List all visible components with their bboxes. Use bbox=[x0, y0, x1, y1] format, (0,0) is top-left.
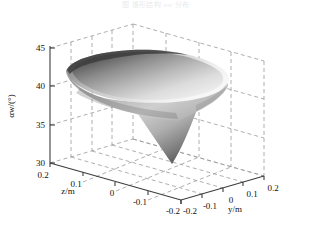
plot-canvas: 45 40 35 30 0.2 0.1 0 -0.1 -0.2 -0.2 -0.… bbox=[0, 0, 312, 234]
tick-z-0: 0 bbox=[110, 188, 115, 198]
tick-alpha-w-40: 40 bbox=[36, 81, 46, 91]
surface-cone bbox=[66, 50, 229, 164]
tick-y-neg0.2: -0.2 bbox=[183, 206, 197, 216]
tick-alpha-w-30: 30 bbox=[36, 158, 46, 168]
ticks-alpha-w bbox=[50, 48, 55, 163]
tick-y-0.1: 0.1 bbox=[246, 189, 257, 199]
axis-title-z: z/m bbox=[61, 186, 75, 196]
tick-z-neg0.2: -0.2 bbox=[166, 206, 180, 216]
tick-y-0.2: 0.2 bbox=[267, 183, 278, 193]
tick-labels-z: 0.2 0.1 0 -0.1 -0.2 bbox=[37, 170, 180, 216]
tick-z-neg0.1: -0.1 bbox=[133, 197, 147, 207]
tick-labels-alpha-w: 45 40 35 30 bbox=[36, 43, 46, 168]
figure-3d-surface-plot: 图 锥形结构 αw 分布 bbox=[0, 0, 312, 234]
tick-alpha-w-45: 45 bbox=[36, 43, 46, 53]
axis-title-y: y/m bbox=[228, 204, 242, 214]
axis-title-alpha-w: αw/(°) bbox=[6, 94, 16, 117]
tick-z-0.2: 0.2 bbox=[37, 170, 48, 180]
tick-y-neg0.1: -0.1 bbox=[203, 201, 217, 211]
tick-alpha-w-35: 35 bbox=[36, 120, 46, 130]
